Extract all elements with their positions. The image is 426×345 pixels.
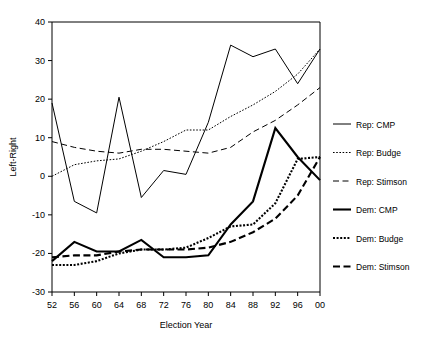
x-tick-label: 72 — [159, 300, 169, 310]
x-tick-label: 92 — [270, 300, 280, 310]
y-axis-title: Left-Right — [8, 137, 18, 177]
x-axis-title: Election Year — [160, 320, 213, 330]
x-tick-label: 60 — [92, 300, 102, 310]
x-tick-label: 84 — [226, 300, 236, 310]
x-tick-label: 56 — [69, 300, 79, 310]
y-tick-label: -30 — [32, 287, 45, 297]
x-tick-label: 80 — [203, 300, 213, 310]
legend-label-rep-budge: Rep: Budge — [356, 148, 401, 158]
legend-label-rep-cmp: Rep: CMP — [356, 120, 396, 130]
y-tick-label: -20 — [32, 248, 45, 258]
x-tick-label: 64 — [114, 300, 124, 310]
y-tick-label: 0 — [40, 171, 45, 181]
x-tick-label: 68 — [136, 300, 146, 310]
chart-background — [0, 0, 426, 345]
x-tick-label: 52 — [47, 300, 57, 310]
legend-label-dem-cmp: Dem: CMP — [356, 205, 398, 215]
y-tick-label: 30 — [35, 56, 45, 66]
legend-label-rep-stimson: Rep: Stimson — [356, 177, 407, 187]
y-tick-label: 20 — [35, 94, 45, 104]
chart-figure: -30-20-10010203040 525660646872768084889… — [0, 0, 426, 345]
y-tick-label: 10 — [35, 133, 45, 143]
y-tick-label: -10 — [32, 210, 45, 220]
legend-label-dem-budge: Dem: Budge — [356, 234, 404, 244]
x-tick-label: 88 — [248, 300, 258, 310]
x-tick-label: 76 — [181, 300, 191, 310]
legend-label-dem-stimson: Dem: Stimson — [356, 262, 410, 272]
y-tick-label: 40 — [35, 17, 45, 27]
line-chart: -30-20-10010203040 525660646872768084889… — [0, 0, 426, 345]
x-tick-label: 96 — [293, 300, 303, 310]
x-tick-label: 00 — [315, 300, 325, 310]
